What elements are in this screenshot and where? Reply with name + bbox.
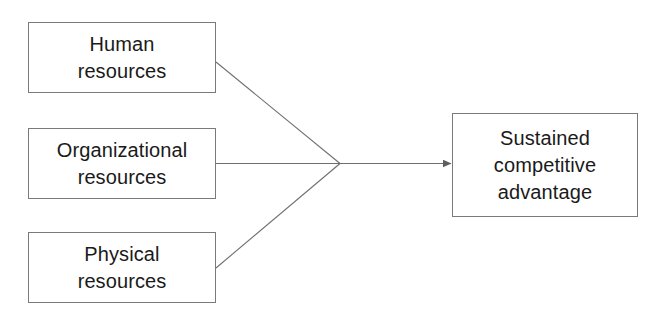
- node-organizational-resources[interactable]: Organizational resources: [28, 128, 216, 199]
- node-human-resources-label: Human resources: [74, 31, 171, 85]
- connector-physical-to-junction: [216, 164, 340, 269]
- node-sustained-competitive-advantage-label: Sustained competitive advantage: [490, 125, 600, 206]
- diagram-canvas: Human resources Organizational resources…: [0, 0, 671, 325]
- node-physical-resources[interactable]: Physical resources: [28, 232, 216, 303]
- node-physical-resources-label: Physical resources: [74, 241, 171, 295]
- node-organizational-resources-label: Organizational resources: [53, 137, 191, 191]
- node-human-resources[interactable]: Human resources: [28, 22, 216, 93]
- node-sustained-competitive-advantage[interactable]: Sustained competitive advantage: [452, 113, 638, 217]
- connector-human-to-junction: [216, 62, 340, 164]
